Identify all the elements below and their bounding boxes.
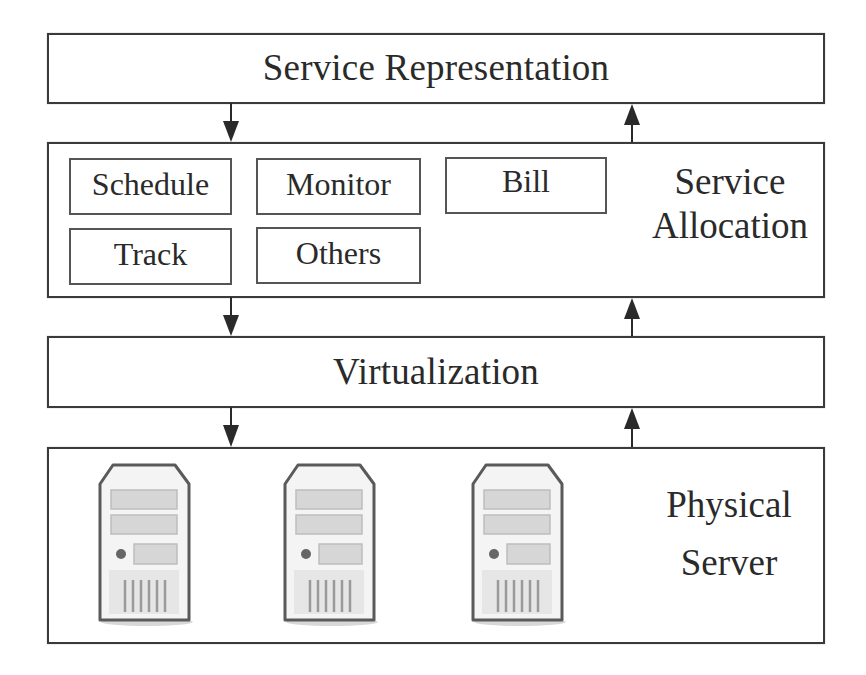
service-allocation-title-line2: Allocation [637, 204, 823, 248]
server-tower-icon [282, 462, 382, 627]
service-allocation-layer: Schedule Monitor Bill Track Others Servi… [47, 142, 825, 298]
arrow-up-icon [620, 407, 644, 448]
arrow-up-icon [620, 297, 644, 337]
physical-server-title: Physical Server [639, 481, 819, 587]
server-tower-icon [470, 462, 570, 627]
service-representation-layer: Service Representation [47, 33, 825, 104]
arrow-up-icon [620, 103, 644, 143]
service-allocation-title: Service Allocation [637, 160, 823, 248]
service-allocation-title-line1: Service [637, 160, 823, 204]
module-bill: Bill [445, 157, 607, 214]
physical-server-title-line1: Physical [639, 481, 819, 529]
virtualization-title: Virtualization [49, 350, 823, 393]
service-representation-title: Service Representation [49, 46, 823, 89]
module-track: Track [69, 228, 232, 285]
arrow-down-icon [219, 297, 243, 337]
virtualization-layer: Virtualization [47, 336, 825, 408]
server-tower-icon [97, 462, 197, 627]
physical-server-layer: Physical Server [47, 447, 825, 644]
arrow-down-icon [219, 407, 243, 448]
module-monitor: Monitor [256, 158, 421, 215]
arrow-down-icon [219, 103, 243, 143]
module-others: Others [256, 227, 421, 284]
module-schedule: Schedule [69, 158, 232, 215]
physical-server-title-line2: Server [639, 539, 819, 587]
